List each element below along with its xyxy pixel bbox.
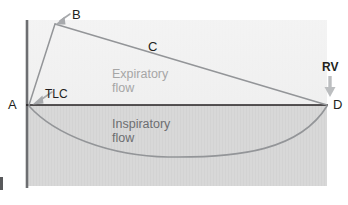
expiratory-flow-label: Expiratory flow xyxy=(112,67,168,95)
inspiratory-flow-label: Inspiratory flow xyxy=(112,117,170,145)
point-label-b: B xyxy=(72,8,81,21)
tlc-label: TLC xyxy=(45,88,68,100)
margin-tick-mark xyxy=(0,177,3,190)
expiratory-flow-label-line2: flow xyxy=(112,81,168,95)
point-label-d: D xyxy=(333,98,342,111)
inspiratory-region-background xyxy=(26,105,327,186)
rv-label: RV xyxy=(322,61,338,73)
inspiratory-flow-label-line1: Inspiratory xyxy=(112,117,170,131)
inspiratory-flow-label-line2: flow xyxy=(112,131,170,145)
point-label-c: C xyxy=(148,40,157,53)
flow-volume-loop-figure: A B C D TLC RV Expiratory flow Inspirato… xyxy=(0,0,348,205)
diagram-canvas xyxy=(0,0,348,205)
point-label-a: A xyxy=(8,98,17,111)
expiratory-flow-label-line1: Expiratory xyxy=(112,67,168,81)
